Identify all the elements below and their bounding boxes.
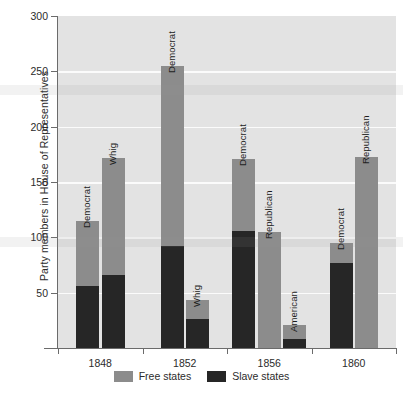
y-tick-mark [51,293,58,294]
bar-label-democrat: Democrat [335,208,346,250]
legend-item[interactable]: Free states [114,370,192,382]
bar-label-democrat: Democrat [166,31,177,73]
bar-segment-free-states [76,221,99,286]
bar-segment-slave-states [102,275,125,348]
y-tick-label: 150 [2,176,48,188]
legend-label: Slave states [232,370,289,382]
bar-label-republican: Republican [360,115,371,164]
legend-item[interactable]: Slave states [207,370,289,382]
y-tick-mark [51,127,58,128]
chart-legend: Free statesSlave states [0,370,403,382]
bar-segment-free-states [258,232,281,348]
bar-label-whig: Whig [191,285,202,307]
bar-segment-slave-states [186,319,209,348]
chart-container: Party members in House of Representative… [0,0,403,395]
y-tick-mark [51,71,58,72]
bar-1848-whig[interactable] [102,158,125,348]
bar-segment-slave-states [76,286,99,348]
legend-swatch [207,371,226,382]
bar-label-democrat: Democrat [237,124,248,166]
bar-label-democrat: Democrat [81,186,92,228]
y-tick-mark [51,16,58,17]
bar-segment-slave-states [232,231,255,348]
bar-1852-democrat[interactable] [161,66,184,348]
x-tick-label: 1852 [155,357,215,369]
x-tick-mark [396,348,397,354]
bar-segment-slave-states [283,339,306,348]
y-tick-mark [51,237,58,238]
y-tick-mark [51,182,58,183]
gridline [58,71,396,73]
gridline [58,127,396,129]
bar-segment-free-states [161,66,184,246]
bar-segment-free-states [232,159,255,231]
bar-label-american: American [288,291,299,332]
bar-segment-free-states [102,158,125,275]
bar-segment-slave-states [330,263,353,348]
y-tick-label: 200 [2,121,48,133]
y-tick-label: 100 [2,231,48,243]
x-axis-line [44,348,396,349]
bar-1856-republican[interactable] [258,232,281,348]
x-tick-mark [227,348,228,354]
x-tick-mark [312,348,313,354]
bar-label-whig: Whig [107,143,118,165]
y-tick-label: 250 [2,65,48,77]
x-tick-label: 1860 [324,357,384,369]
bar-1860-republican[interactable] [355,157,378,348]
x-tick-label: 1848 [70,357,130,369]
y-tick-label: 50 [2,287,48,299]
bar-1848-democrat[interactable] [76,221,99,348]
x-tick-mark [58,348,59,354]
x-tick-label: 1856 [239,357,299,369]
bar-segment-slave-states [161,246,184,348]
bar-segment-free-states [355,157,378,348]
x-tick-mark [143,348,144,354]
legend-swatch [114,371,133,382]
y-tick-label: 300 [2,10,48,22]
bar-1856-democrat[interactable] [232,159,255,348]
bar-1852-whig[interactable] [186,300,209,348]
bar-label-republican: Republican [263,190,274,239]
bar-1860-democrat[interactable] [330,243,353,348]
legend-label: Free states [139,370,192,382]
